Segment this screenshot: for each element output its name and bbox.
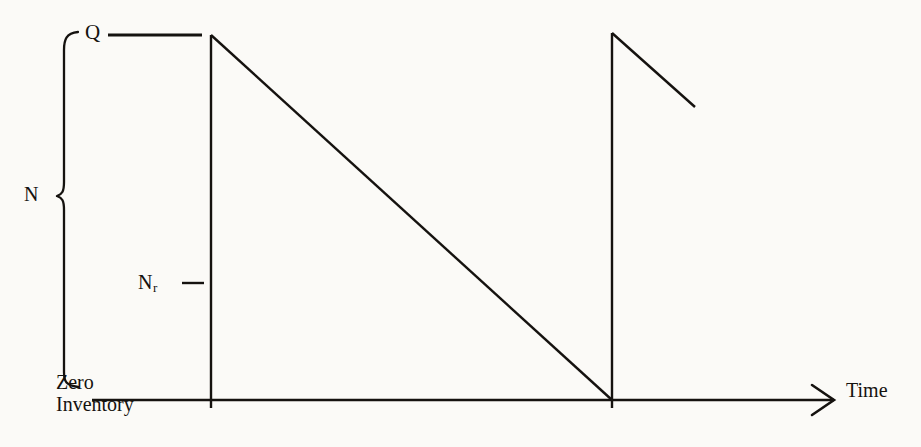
zero-inventory-line-2: Inventory <box>56 393 134 415</box>
inventory-sawtooth-figure: Q N Nr Zero Inventory Time <box>0 0 921 447</box>
n-bracket-label: N <box>24 184 38 204</box>
nr-level-label: Nr <box>138 272 157 292</box>
time-axis-label: Time <box>846 380 888 400</box>
inventory-chart-svg <box>0 0 921 447</box>
zero-inventory-line-1: Zero <box>56 371 134 393</box>
nr-label-subscript: r <box>153 280 157 295</box>
nr-label-base: N <box>138 271 152 293</box>
zero-inventory-label: Zero Inventory <box>56 371 134 415</box>
q-level-label: Q <box>85 22 100 43</box>
figure-background <box>0 0 921 447</box>
